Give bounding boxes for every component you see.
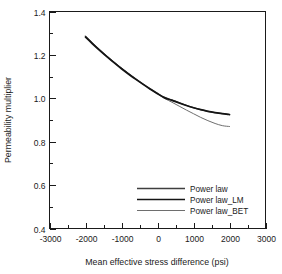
data-series-group <box>86 36 230 127</box>
legend-label-power-law-lm: Power law_LM <box>190 196 244 205</box>
y-axis-minor-ticks <box>50 34 54 208</box>
x-tick-label-0: 0 <box>156 234 161 244</box>
y-tick-label-0.4: 0.4 <box>34 225 46 235</box>
legend-label-power-law: Power law <box>190 185 228 194</box>
y-tick-label-1.2: 1.2 <box>34 51 46 61</box>
y-axis-title: Permeability multiplier <box>3 77 13 163</box>
y-tick-label-0.6: 0.6 <box>34 181 46 191</box>
y-tick-label-1.4: 1.4 <box>34 8 46 18</box>
x-tick-label-2000: 2000 <box>221 234 240 244</box>
chart-figure: -3000-2000-10000100020003000 0.40.60.81.… <box>0 0 282 274</box>
x-tick-label--3000: -3000 <box>40 234 62 244</box>
y-axis-tick-labels: 0.40.60.81.01.21.4 <box>34 8 46 235</box>
x-axis-title: Mean effective stress difference (psi) <box>85 257 228 267</box>
series-line-power-law-bet <box>86 36 230 127</box>
series-line-power-law-lm <box>86 37 230 114</box>
chart-legend: Power lawPower law_LMPower law_BET <box>137 185 248 216</box>
chart-canvas: -3000-2000-10000100020003000 0.40.60.81.… <box>0 0 282 274</box>
x-tick-label-3000: 3000 <box>257 234 276 244</box>
x-tick-label--2000: -2000 <box>76 234 98 244</box>
series-line-power-law <box>86 36 230 114</box>
y-tick-label-1.0: 1.0 <box>34 94 46 104</box>
x-tick-label-1000: 1000 <box>185 234 204 244</box>
x-axis-major-ticks <box>51 223 267 229</box>
legend-label-power-law-bet: Power law_BET <box>190 207 248 216</box>
x-tick-label--1000: -1000 <box>112 234 134 244</box>
x-axis-tick-labels: -3000-2000-10000100020003000 <box>40 234 277 244</box>
y-tick-label-0.8: 0.8 <box>34 138 46 148</box>
